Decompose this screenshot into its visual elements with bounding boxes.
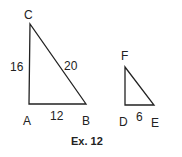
vertex-label-e: E <box>151 116 159 130</box>
triangle-abc-shape <box>29 24 86 104</box>
vertex-label-c: C <box>24 8 33 22</box>
vertex-label-f: F <box>121 49 128 63</box>
vertex-label-d: D <box>119 115 128 129</box>
side-label-de: 6 <box>136 110 143 124</box>
side-label-ab: 12 <box>50 109 64 123</box>
side-label-ac: 16 <box>10 60 24 74</box>
triangle-abc: C A B 16 20 12 <box>10 8 90 128</box>
triangle-def: F D E 6 <box>119 49 159 130</box>
triangle-def-shape <box>125 67 154 105</box>
vertex-label-a: A <box>23 114 31 128</box>
figure-caption: Ex. 12 <box>71 135 103 147</box>
side-label-cb: 20 <box>64 59 78 73</box>
vertex-label-b: B <box>82 114 90 128</box>
similar-triangles-figure: C A B 16 20 12 F D E 6 Ex. 12 <box>0 0 182 157</box>
